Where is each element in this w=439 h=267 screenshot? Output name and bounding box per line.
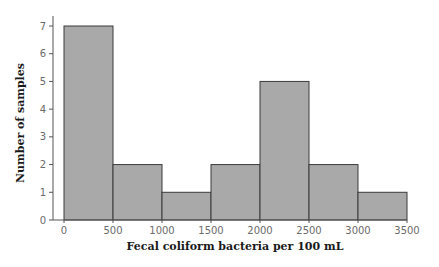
x-tick-label: 3500 (394, 225, 419, 236)
y-tick-label: 0 (40, 215, 46, 226)
x-tick-label: 2500 (296, 225, 321, 236)
histogram-bar (260, 81, 309, 220)
y-axis: 01234567 (40, 16, 53, 226)
x-tick-label: 2000 (247, 225, 272, 236)
x-tick-label: 1000 (149, 225, 174, 236)
y-axis-title: Number of samples (14, 63, 27, 183)
x-tick-label: 1500 (198, 225, 223, 236)
x-axis-title: Fecal coliform bacteria per 100 mL (127, 240, 344, 253)
y-tick-label: 5 (40, 76, 46, 87)
histogram-bar (211, 165, 260, 220)
x-tick-label: 500 (103, 225, 122, 236)
histogram-chart: 01234567 0500100015002000250030003500 Fe… (0, 0, 439, 267)
histogram-bar (358, 192, 407, 220)
histogram-bar (309, 165, 358, 220)
y-tick-label: 7 (40, 21, 46, 32)
y-tick-label: 6 (40, 48, 46, 59)
y-tick-label: 1 (40, 187, 46, 198)
y-tick-label: 2 (40, 159, 46, 170)
y-tick-label: 4 (40, 104, 46, 115)
x-tick-label: 0 (61, 225, 67, 236)
x-tick-label: 3000 (345, 225, 370, 236)
histogram-bars (64, 26, 407, 220)
x-axis: 0500100015002000250030003500 (53, 220, 420, 236)
y-tick-label: 3 (40, 131, 46, 142)
histogram-bar (113, 165, 162, 220)
histogram-bar (64, 26, 113, 220)
histogram-bar (162, 192, 211, 220)
